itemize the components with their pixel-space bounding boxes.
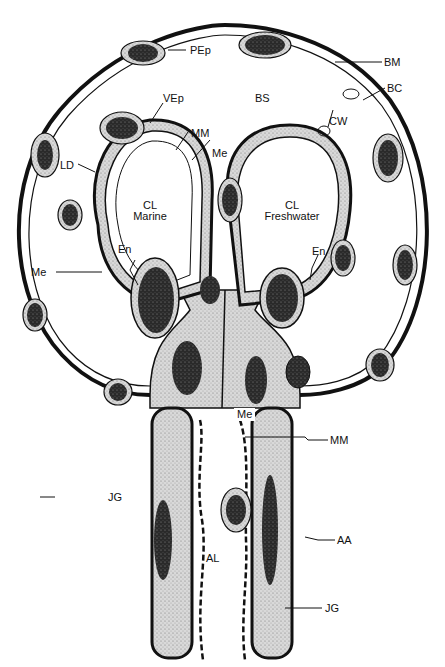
label-BS: BS bbox=[255, 93, 270, 104]
label-CL-freshwater: CL Freshwater bbox=[262, 200, 322, 222]
afferent-arteriole bbox=[152, 408, 292, 660]
label-JG-left: JG bbox=[108, 492, 122, 503]
label-En-left: En bbox=[118, 244, 131, 255]
label-marine: Marine bbox=[133, 210, 167, 222]
label-LD: LD bbox=[60, 160, 74, 171]
label-AL: AL bbox=[206, 553, 219, 564]
label-AA: AA bbox=[337, 535, 352, 546]
label-BM: BM bbox=[384, 57, 401, 68]
label-Me-top: Me bbox=[212, 148, 227, 159]
label-Me-left: Me bbox=[31, 267, 46, 278]
label-MM-bottom: MM bbox=[330, 435, 348, 446]
label-freshwater: Freshwater bbox=[264, 210, 319, 222]
label-En-right: En bbox=[312, 246, 325, 257]
label-CW: CW bbox=[329, 116, 347, 127]
label-CL-marine: CL Marine bbox=[128, 200, 172, 222]
label-VEp: VEp bbox=[163, 93, 184, 104]
label-BC: BC bbox=[387, 83, 402, 94]
label-PEp: PEp bbox=[190, 45, 211, 56]
label-JG-right: JG bbox=[325, 603, 339, 614]
label-Me-center: Me bbox=[234, 408, 255, 421]
label-MM-top: MM bbox=[191, 128, 209, 139]
bladder-cross-section-diagram bbox=[0, 0, 445, 667]
